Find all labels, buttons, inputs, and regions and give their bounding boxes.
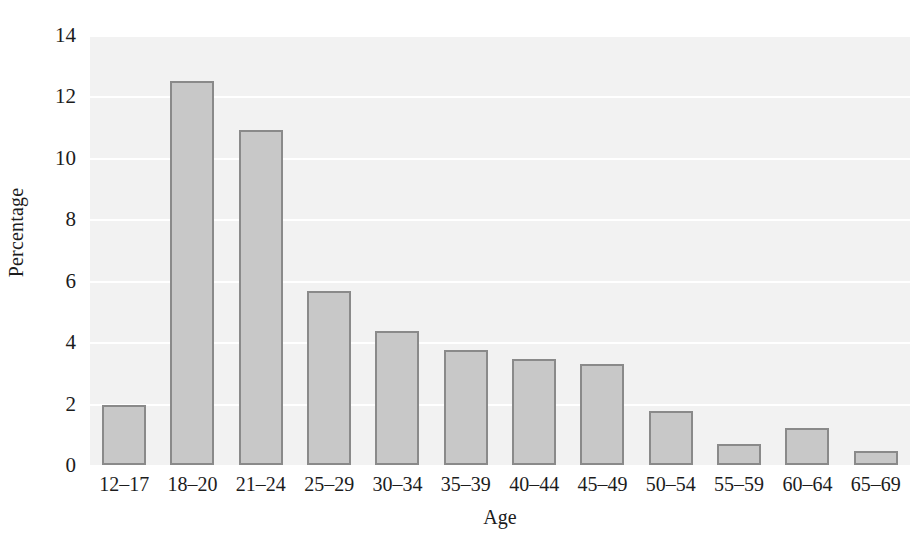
x-axis-tick-labels: 12–1718–2021–2425–2930–3435–3940–4445–49…: [90, 470, 910, 500]
bar[interactable]: [307, 291, 351, 465]
bar[interactable]: [170, 81, 214, 465]
plot-area: [90, 35, 910, 465]
bars-layer: [90, 35, 910, 465]
bar-slot: [637, 35, 705, 465]
bar-slot: [158, 35, 226, 465]
bar[interactable]: [375, 331, 419, 465]
bar-slot: [432, 35, 500, 465]
bar[interactable]: [444, 350, 488, 465]
bar[interactable]: [649, 411, 693, 465]
bar-slot: [363, 35, 431, 465]
x-axis-tick-label: 60–64: [773, 470, 841, 500]
bar[interactable]: [717, 444, 761, 466]
bar[interactable]: [512, 359, 556, 465]
y-axis-title: Percentage: [0, 0, 34, 465]
x-axis-tick-label: 30–34: [363, 470, 431, 500]
bar[interactable]: [854, 451, 898, 465]
x-axis-tick-label: 12–17: [90, 470, 158, 500]
y-axis-tick-label: 6: [66, 270, 77, 291]
bar-slot: [773, 35, 841, 465]
x-axis-tick-label: 40–44: [500, 470, 568, 500]
x-axis-tick-label: 45–49: [568, 470, 636, 500]
y-axis-tick-label: 12: [55, 86, 76, 107]
y-axis-tick-label: 0: [66, 455, 77, 476]
bar-slot: [842, 35, 910, 465]
bar-slot: [500, 35, 568, 465]
y-axis-tick-labels: 02468101214: [36, 35, 84, 465]
x-axis-tick-label: 25–29: [295, 470, 363, 500]
x-axis-tick-label: 65–69: [842, 470, 910, 500]
bar[interactable]: [102, 405, 146, 465]
y-axis-tick-label: 8: [66, 209, 77, 230]
y-axis-tick-label: 10: [55, 147, 76, 168]
x-axis-tick-label: 21–24: [227, 470, 295, 500]
bar-slot: [90, 35, 158, 465]
bar[interactable]: [785, 428, 829, 465]
bar-slot: [295, 35, 363, 465]
y-axis-tick-label: 4: [66, 332, 77, 353]
y-axis-title-label: Percentage: [6, 188, 29, 278]
bar[interactable]: [580, 364, 624, 465]
y-axis-tick-label: 2: [66, 393, 77, 414]
bar-slot: [705, 35, 773, 465]
bar-slot: [568, 35, 636, 465]
bar[interactable]: [239, 130, 283, 465]
x-axis-tick-label: 35–39: [432, 470, 500, 500]
x-axis-tick-label: 55–59: [705, 470, 773, 500]
x-axis-tick-label: 18–20: [158, 470, 226, 500]
x-axis-tick-label: 50–54: [637, 470, 705, 500]
bar-slot: [227, 35, 295, 465]
bar-chart-figure: Percentage 02468101214 12–1718–2021–2425…: [0, 0, 922, 560]
x-axis-title: Age: [90, 506, 910, 529]
y-axis-tick-label: 14: [55, 25, 76, 46]
